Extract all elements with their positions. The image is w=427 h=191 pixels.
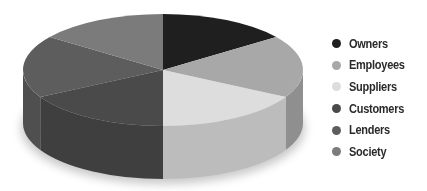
legend-label: Owners bbox=[349, 37, 388, 51]
legend-label: Suppliers bbox=[349, 80, 397, 94]
legend-item-owners: Owners bbox=[332, 33, 412, 55]
legend-label: Employees bbox=[349, 58, 405, 72]
legend-bullet-icon bbox=[332, 61, 341, 70]
legend-item-lenders: Lenders bbox=[332, 119, 412, 141]
legend-item-employees: Employees bbox=[332, 55, 412, 77]
legend-label: Lenders bbox=[349, 123, 390, 137]
legend-bullet-icon bbox=[332, 82, 341, 91]
legend-item-society: Society bbox=[332, 141, 412, 163]
legend-bullet-icon bbox=[332, 39, 341, 48]
chart-legend: Owners Employees Suppliers Customers Len… bbox=[332, 33, 412, 163]
legend-item-customers: Customers bbox=[332, 98, 412, 120]
legend-bullet-icon bbox=[332, 104, 341, 113]
legend-label: Society bbox=[349, 145, 386, 159]
legend-item-suppliers: Suppliers bbox=[332, 76, 412, 98]
legend-bullet-icon bbox=[332, 126, 341, 135]
pie-top-face bbox=[23, 14, 303, 126]
legend-label: Customers bbox=[349, 102, 404, 116]
legend-bullet-icon bbox=[332, 147, 341, 156]
